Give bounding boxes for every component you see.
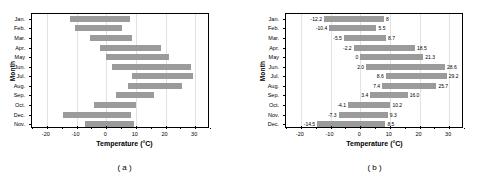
gridline (136, 14, 137, 127)
value-label-min: -5.5 (333, 35, 342, 41)
x-tick-minor (151, 128, 152, 130)
value-label-min: -10.4 (316, 25, 327, 31)
gridline (420, 14, 421, 127)
x-tick-minor (286, 128, 287, 130)
y-tick-label: Oct. (15, 102, 25, 108)
value-label-max: 16.0 (410, 92, 420, 98)
value-label-min: 8.6 (377, 73, 384, 79)
gridline (301, 14, 302, 127)
bar-oct (348, 102, 390, 108)
x-tick-label: -10 (72, 131, 80, 137)
value-label-min: -12.2 (311, 16, 322, 22)
y-tick (29, 115, 32, 116)
y-tick-label: May (269, 54, 279, 60)
y-tick-label: Feb. (268, 25, 279, 31)
x-axis-label-a: Temperature (°C) (0, 140, 249, 147)
bar-mar (344, 35, 386, 41)
bar-jul (132, 73, 193, 79)
y-tick-label: Aug. (268, 83, 279, 89)
x-tick-minor (434, 128, 435, 130)
y-tick-label: Feb. (14, 25, 25, 31)
value-label-max: 5.5 (378, 25, 385, 31)
x-tick (331, 126, 332, 129)
y-tick-label: Sep. (268, 92, 279, 98)
value-label-min: -2.2 (343, 45, 352, 51)
x-axis-label-b: Temperature (°C) (250, 140, 499, 147)
value-label-min: 0 (355, 54, 358, 60)
value-label-max: 18.5 (417, 45, 427, 51)
bar-aug (382, 83, 436, 89)
x-tick (77, 126, 78, 129)
y-tick (29, 57, 32, 58)
value-label-max: 8 (386, 16, 389, 22)
plot-area-a: Jan.Feb.Mar.Apr.MayJun.Jul.Aug.Sep.Oct.D… (31, 13, 209, 128)
gridline (449, 14, 450, 127)
y-tick (283, 38, 286, 39)
panel-a: Month Jan.Feb.Mar.Apr.MayJun.Jul.Aug.Sep… (0, 0, 249, 188)
x-tick-label: 30 (191, 131, 197, 137)
panel-caption-a: ( a ) (0, 163, 249, 172)
x-tick-minor (375, 128, 376, 130)
value-label-max: 25.7 (438, 83, 448, 89)
value-label-min: 7.4 (373, 83, 380, 89)
y-tick-label: Mar. (14, 35, 25, 41)
y-tick (29, 38, 32, 39)
y-tick (29, 124, 32, 125)
gridline (195, 14, 196, 127)
x-tick (47, 126, 48, 129)
y-tick (283, 95, 286, 96)
x-tick-minor (32, 128, 33, 130)
panel-b: Month Jan.-12.28Feb.-10.45.5Mar.-5.58.7A… (250, 0, 499, 188)
y-tick-label: Nov. (268, 112, 279, 118)
x-tick-minor (210, 128, 211, 130)
x-tick (301, 126, 302, 129)
x-tick-minor (316, 128, 317, 130)
x-tick-label: 0 (104, 131, 107, 137)
y-tick-label: Aug. (14, 83, 25, 89)
bar-nov (339, 112, 388, 118)
bar-apr (354, 45, 415, 51)
bar-jan (70, 16, 130, 22)
value-label-max: 21.3 (425, 54, 435, 60)
y-tick (283, 67, 286, 68)
bar-may (106, 54, 169, 60)
y-tick (29, 76, 32, 77)
x-tick (195, 126, 196, 129)
y-tick (29, 86, 32, 87)
x-tick (136, 126, 137, 129)
value-label-max: 9.3 (390, 112, 397, 118)
y-tick-label: Sep. (14, 92, 25, 98)
panel-caption-b: ( b ) (250, 163, 499, 172)
y-tick (283, 105, 286, 106)
x-tick (360, 126, 361, 129)
bar-jan (324, 16, 384, 22)
y-tick-label: Jul. (16, 73, 25, 79)
y-tick-label: Jun. (15, 64, 25, 70)
value-label-max: 29.2 (449, 73, 459, 79)
y-tick-label: Oct. (269, 102, 279, 108)
x-tick-minor (345, 128, 346, 130)
plot-area-b: Jan.-12.28Feb.-10.45.5Mar.-5.58.7Apr.-2.… (285, 13, 463, 128)
y-tick (283, 57, 286, 58)
bar-sep (370, 92, 407, 98)
gridline (47, 14, 48, 127)
y-tick (283, 76, 286, 77)
y-tick-label: Jul. (270, 73, 279, 79)
x-tick-label: 10 (132, 131, 138, 137)
y-tick (283, 48, 286, 49)
value-label-min: -4.1 (337, 102, 346, 108)
y-tick (29, 48, 32, 49)
gridline (390, 14, 391, 127)
x-tick-minor (464, 128, 465, 130)
value-label-max: 10.2 (392, 102, 402, 108)
y-tick-label: Nov. (14, 121, 25, 127)
bar-mar (90, 35, 132, 41)
y-tick-label: Jun. (269, 64, 279, 70)
bar-feb (329, 25, 376, 31)
x-tick-label: 20 (415, 131, 421, 137)
bar-nov (85, 121, 134, 127)
gridline (166, 14, 167, 127)
bar-dec (63, 112, 131, 118)
y-tick (283, 86, 286, 87)
bar-jun (112, 64, 191, 70)
